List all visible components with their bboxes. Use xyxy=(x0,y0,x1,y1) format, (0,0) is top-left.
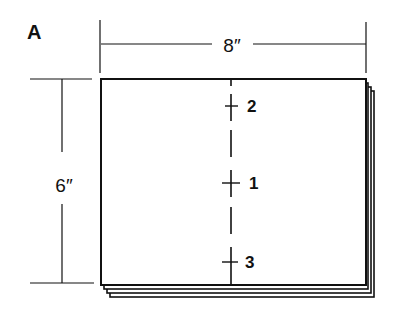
height-dimension-label: 6″ xyxy=(55,175,73,196)
panel-label: A xyxy=(27,21,41,43)
sheet-front xyxy=(101,79,366,285)
width-dimension-label: 8″ xyxy=(223,35,241,56)
marker-2-label: 2 xyxy=(247,97,256,116)
sheet-stack xyxy=(101,79,374,297)
marker-1-label: 1 xyxy=(249,174,258,193)
paper-stack-diagram: A 8″ 6″ 2 1 xyxy=(0,0,397,314)
marker-3-label: 3 xyxy=(245,253,254,272)
